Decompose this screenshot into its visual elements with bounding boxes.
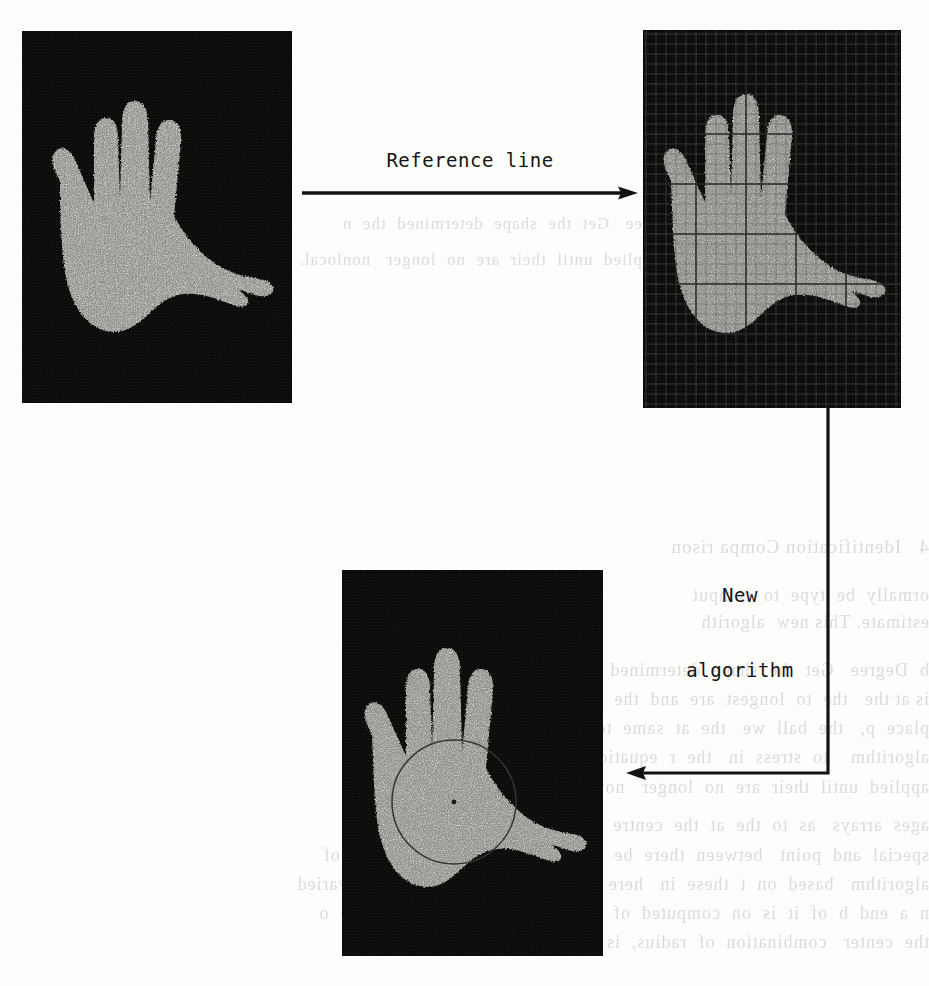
new-algorithm-label: New algorithm [660, 533, 820, 734]
new-algorithm-label-line2: algorithm [660, 658, 820, 683]
panel-original-hand [22, 31, 292, 403]
bleedthrough-line: applied until their are no longer nonloc… [549, 777, 929, 798]
panel-circle-hand [342, 570, 603, 956]
figure-page: 4 Identification Compa rison ormally be … [0, 0, 929, 986]
panel-gridded-hand [643, 30, 901, 408]
reference-line-label: Reference line [330, 148, 610, 173]
arrow-head [626, 766, 646, 780]
original-hand-image [22, 31, 292, 403]
reference-line-arrow [300, 182, 640, 204]
gridded-hand-image [643, 30, 901, 408]
bleedthrough-line: applied until their are no longer nonloc… [298, 250, 660, 270]
arrow-head [618, 187, 638, 200]
circle-hand-image [342, 570, 603, 956]
new-algorithm-label-line1: New [660, 583, 820, 608]
